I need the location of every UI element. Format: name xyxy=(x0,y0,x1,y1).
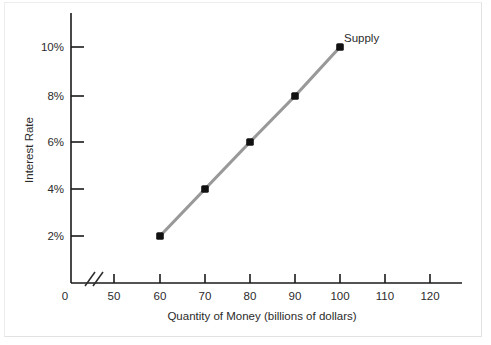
x-tick-label-50: 50 xyxy=(108,290,121,302)
data-point-60-2 xyxy=(156,232,164,240)
x-tick-label-110: 110 xyxy=(376,290,394,302)
x-tick-label-80: 80 xyxy=(244,290,257,302)
axis-break-slash-1 xyxy=(85,272,95,286)
supply-curve-label: Supply xyxy=(344,32,379,44)
x-tick-label-70: 70 xyxy=(199,290,212,302)
axis-break-mark xyxy=(85,272,103,286)
y-tick-label-10: 10% xyxy=(41,41,64,53)
supply-curve-chart: 10% 8% 6% 4% 2% 0 50 60 70 8 xyxy=(0,0,491,345)
y-axis-title: Interest Rate xyxy=(23,117,35,183)
x-axis-title: Quantity of Money (billions of dollars) xyxy=(167,310,356,322)
chart-figure: 10% 8% 6% 4% 2% 0 50 60 70 8 xyxy=(0,0,491,345)
data-point-100-10 xyxy=(336,43,344,51)
x-axis-tick-labels: 0 50 60 70 80 90 100 110 120 xyxy=(62,290,440,302)
axes-group xyxy=(71,13,462,283)
data-point-80-6 xyxy=(246,138,254,146)
x-tick-label-90: 90 xyxy=(289,290,302,302)
x-tick-label-120: 120 xyxy=(420,290,439,302)
y-axis-tick-labels: 10% 8% 6% 4% 2% xyxy=(41,41,64,242)
x-tick-label-0: 0 xyxy=(62,290,68,302)
x-tick-label-100: 100 xyxy=(330,290,349,302)
supply-series xyxy=(156,43,344,240)
x-tick-label-60: 60 xyxy=(154,290,167,302)
y-tick-label-4: 4% xyxy=(47,183,64,195)
y-tick-label-2: 2% xyxy=(47,230,64,242)
x-axis-ticks xyxy=(114,274,430,283)
axis-break-slash-2 xyxy=(93,272,103,286)
y-axis-ticks xyxy=(71,47,84,236)
y-tick-label-6: 6% xyxy=(47,136,64,148)
y-tick-label-8: 8% xyxy=(47,90,64,102)
data-point-90-8 xyxy=(291,92,299,100)
data-point-70-4 xyxy=(201,185,209,193)
